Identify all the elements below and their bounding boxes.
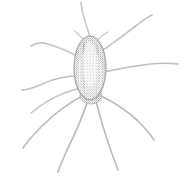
spider-illustration: A very faint, grainy grayscale drawing o… xyxy=(0,0,185,178)
spider-drawing-canvas xyxy=(0,0,185,178)
spider-body xyxy=(74,36,106,100)
body-texture-overlay xyxy=(77,50,103,98)
